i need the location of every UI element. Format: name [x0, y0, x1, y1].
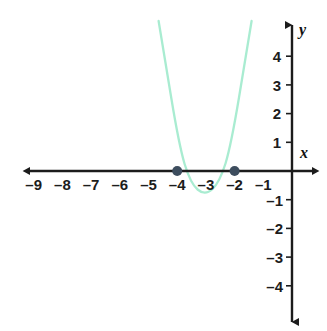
x-tick-label: –3 — [198, 176, 215, 193]
parabola-curve — [159, 21, 252, 193]
y-tick-label: 3 — [273, 77, 281, 94]
x-tick-label: –1 — [255, 176, 272, 193]
y-tick-label: 1 — [273, 134, 281, 151]
graph-figure: –9 –8 –7 –6 –5 –4 –3 –2 –1 4 3 2 1 –1 –2… — [0, 0, 327, 331]
y-tick-label: 4 — [273, 48, 282, 65]
y-axis-label: y — [297, 21, 307, 39]
point-marker — [172, 166, 182, 176]
y-tick-label: –1 — [266, 192, 283, 209]
x-tick-label: –2 — [226, 176, 243, 193]
x-tick-label: –7 — [83, 176, 100, 193]
x-tick-label: –5 — [140, 176, 157, 193]
x-tick-label: –6 — [111, 176, 128, 193]
y-tick-label: –4 — [266, 278, 283, 295]
y-tick-label: –2 — [266, 220, 283, 237]
x-tick-label: –9 — [25, 176, 42, 193]
x-axis-label: x — [299, 144, 308, 161]
x-tick-labels: –9 –8 –7 –6 –5 –4 –3 –2 –1 — [25, 176, 271, 193]
point-marker — [230, 166, 240, 176]
y-tick-label: 2 — [273, 105, 281, 122]
y-tick-label: –3 — [266, 249, 283, 266]
coordinate-plane-svg: –9 –8 –7 –6 –5 –4 –3 –2 –1 4 3 2 1 –1 –2… — [0, 0, 327, 331]
x-tick-label: –8 — [54, 176, 71, 193]
x-tick-label: –4 — [169, 176, 186, 193]
